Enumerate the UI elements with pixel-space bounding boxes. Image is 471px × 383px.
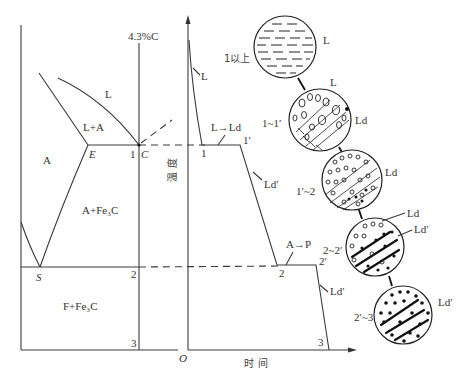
origin-label: O — [179, 352, 187, 364]
y-axis-label: 温 度 — [166, 158, 178, 181]
curve-point-3: 3 — [318, 336, 324, 348]
curve-label-l: L — [201, 70, 208, 82]
region-a-plus-fe3c: A+Fe₃C — [82, 204, 118, 216]
micro-4-label-ld-prime: Ld′ — [414, 223, 429, 235]
micro-circle-l-ld — [289, 89, 351, 151]
micro-circle-ld-prime — [374, 286, 432, 344]
liquidus-line — [58, 78, 139, 145]
curve-point-2-prime: 2′ — [319, 255, 327, 267]
marker-3-left: 3 — [131, 337, 137, 349]
point-s-label: S — [36, 271, 42, 283]
leader-ld-prime-1 — [253, 172, 262, 180]
eutectoid-dashed-link — [139, 266, 282, 267]
micro-circle-liquid — [254, 16, 316, 78]
micro-2-label-l: L — [330, 76, 337, 88]
iron-carbon-diagram: 4.3%C L L+A A E 1 C A+Fe₃C S 2 F+Fe₃C 3 … — [0, 0, 471, 383]
phase-diagram: 4.3%C L L+A A E 1 C A+Fe₃C S 2 F+Fe₃C 3 — [21, 25, 282, 350]
connector-1-2 — [298, 78, 305, 90]
micro-1-label-l: L — [323, 34, 330, 46]
x-axis-label: 时 间 — [244, 357, 267, 369]
gs-line — [21, 222, 40, 267]
micro-4-label-ld: Ld — [407, 207, 420, 219]
leader-micro-4-ld — [382, 213, 405, 221]
curve-label-ld-prime-2: Ld′ — [330, 285, 345, 297]
time-axis-arrow-icon — [348, 348, 357, 353]
region-a: A — [43, 154, 51, 166]
region-l: L — [105, 88, 112, 100]
micro-2-stage: 1~1′ — [262, 117, 281, 129]
solidus-line — [39, 73, 88, 145]
curve-point-1-prime: 1′ — [243, 134, 251, 146]
curve-point-1: 1 — [201, 147, 207, 159]
micro-circle-ld — [322, 150, 382, 210]
region-f-plus-fe3c: F+Fe₃C — [63, 300, 98, 312]
region-l-plus-a: L+A — [83, 121, 104, 133]
curve-label-l-to-ld: L→Ld — [211, 121, 241, 133]
micro-circle-ld-ld-prime — [346, 218, 404, 276]
point-c-label: C — [141, 148, 149, 160]
micro-3-stage: 1′~2 — [296, 185, 315, 197]
point-e-label: E — [88, 148, 96, 160]
point-c-dot — [137, 143, 140, 146]
micro-4-stage: 2~2′ — [323, 244, 342, 256]
leader-l — [193, 68, 200, 75]
curve-label-a-to-p: A→P — [286, 238, 311, 250]
curve-point-2: 2 — [279, 267, 285, 279]
liquidus-extension-dashed — [141, 120, 172, 143]
leader-a-p — [286, 252, 293, 265]
temperature-axis-arrow-icon — [186, 15, 191, 24]
marker-2-left: 2 — [131, 268, 137, 280]
micro-1-stage: 1以上 — [224, 53, 250, 64]
micro-2-label-ld: Ld — [355, 114, 368, 126]
micro-5-label-ld-prime: Ld′ — [438, 296, 453, 308]
micro-5-stage: 2′~3 — [354, 311, 374, 323]
y-axis-label-group: 温 度 — [166, 158, 178, 181]
connector-3-4 — [359, 210, 362, 219]
leader-ld-prime-2 — [320, 285, 328, 292]
composition-label: 4.3%C — [128, 30, 158, 42]
curve-label-ld-prime-1: Ld′ — [264, 178, 279, 190]
leader-l-ld — [218, 135, 225, 145]
marker-1-left: 1 — [130, 148, 136, 160]
connector-4-5 — [389, 276, 392, 286]
micro-3-label-ld: Ld — [385, 166, 398, 178]
